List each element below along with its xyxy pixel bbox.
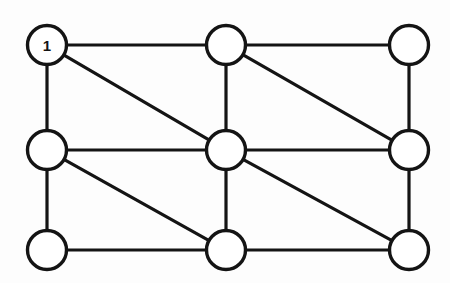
graph-node xyxy=(28,231,67,270)
graph-node-circle xyxy=(390,231,429,270)
graph-edge xyxy=(63,159,210,241)
graph-nodes-layer: 1 xyxy=(28,26,429,270)
graph-node-circle xyxy=(28,231,67,270)
graph-node-circle xyxy=(207,231,246,270)
graph-node: 1 xyxy=(28,26,67,65)
graph-node xyxy=(390,131,429,170)
graph-node-circle xyxy=(207,26,246,65)
graph-node xyxy=(28,131,67,170)
graph-node xyxy=(390,231,429,270)
graph-node-circle xyxy=(28,131,67,170)
graph-node xyxy=(207,131,246,170)
graph-edge xyxy=(242,54,393,141)
graph-node-label: 1 xyxy=(43,37,51,54)
graph-figure: 1 xyxy=(0,0,450,283)
graph-edge xyxy=(63,54,210,140)
graph-canvas: 1 xyxy=(0,0,450,283)
graph-node-circle xyxy=(390,26,429,65)
graph-node-circle xyxy=(390,131,429,170)
graph-node-circle xyxy=(207,131,246,170)
graph-node xyxy=(390,26,429,65)
graph-node xyxy=(207,231,246,270)
graph-node xyxy=(207,26,246,65)
graph-edge xyxy=(242,159,393,241)
